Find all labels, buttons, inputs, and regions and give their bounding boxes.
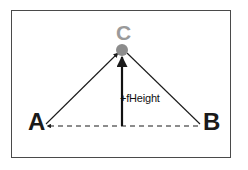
- apex-dot: [116, 44, 128, 56]
- edge-a-to-c: [46, 53, 118, 124]
- edge-b-to-c: [127, 53, 200, 124]
- vertex-label-a: A: [28, 110, 45, 134]
- height-annotation-label: +fHeight: [120, 92, 160, 104]
- vertex-label-c: C: [116, 22, 131, 43]
- diagram-canvas: A B C +fHeight: [0, 0, 248, 170]
- vertex-label-b: B: [203, 110, 220, 134]
